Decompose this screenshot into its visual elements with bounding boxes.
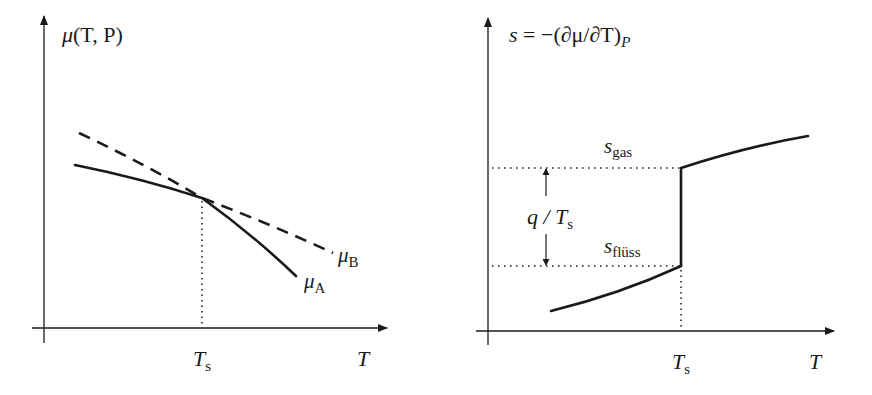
mu-b-curve xyxy=(79,133,333,253)
right-panel-entropy: s = −(∂μ/∂T)P q / Ts sgas sflüss Ts T xyxy=(476,18,834,377)
s-gas-label: sgas xyxy=(604,134,632,160)
mu-a-curve xyxy=(75,165,296,276)
left-x-axis-label: T xyxy=(357,346,371,371)
left-ts-tick-label: Ts xyxy=(193,346,211,374)
mu-b-label: μB xyxy=(337,243,359,270)
right-x-axis-label: T xyxy=(809,349,823,374)
left-y-axis-label: μ(T, P) xyxy=(61,22,123,47)
latent-heat-label: q / Ts xyxy=(527,204,573,232)
left-panel-chemical-potential: μ(T, P) μB μA Ts T xyxy=(32,16,387,374)
s-liquid-label: sflüss xyxy=(604,234,641,260)
s-gas-curve xyxy=(681,136,808,168)
right-y-axis-label: s = −(∂μ/∂T)P xyxy=(509,22,630,50)
mu-a-label: μA xyxy=(303,269,326,296)
figure: μ(T, P) μB μA Ts T s = −(∂μ/∂T)P xyxy=(0,0,872,395)
right-ts-tick-label: Ts xyxy=(672,349,690,377)
s-liquid-curve xyxy=(551,266,681,311)
